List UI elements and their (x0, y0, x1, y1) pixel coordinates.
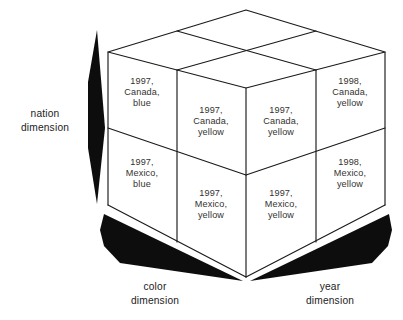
cell-right-bottom-line1: 1998, (338, 157, 362, 167)
cell-left-bottom-inner-line2: Mexico, (195, 199, 227, 209)
nation-dimension-label-line2: dimension (21, 122, 69, 133)
cell-right-bottom-inner-line1: 1997, (269, 188, 293, 198)
cell-right-bottom-line3: yellow (337, 179, 363, 189)
cell-left-bottom-line2: Mexico, (126, 168, 158, 178)
olap-cube-diagram: 1997, Canada, blue 1997, Canada, yellow … (0, 0, 403, 320)
nation-dimension-label: nation dimension (21, 108, 69, 133)
cell-left-bottom-line3: blue (133, 179, 151, 189)
cell-left-top-line2: Canada, (124, 87, 159, 97)
cell-right-top-line1: 1998, (338, 76, 362, 86)
cell-left-top-inner-line1: 1997, (199, 105, 223, 115)
nation-dimension-label-line1: nation (31, 108, 60, 119)
cell-right-top-inner-line1: 1997, (269, 105, 293, 115)
nation-dimension-arrow (88, 30, 105, 204)
color-dimension-label-line2: dimension (131, 295, 179, 306)
cube-illustration: 1997, Canada, blue 1997, Canada, yellow … (0, 0, 403, 320)
color-dimension-label-line1: color (143, 281, 166, 292)
cell-right-top-line3: yellow (337, 98, 363, 108)
cell-right-bottom-inner: 1997, Mexico, yellow (265, 188, 297, 220)
cell-right-top-inner-line2: Canada, (263, 116, 298, 126)
color-dimension-label: color dimension (131, 281, 179, 306)
cell-right-top-line2: Canada, (332, 87, 367, 97)
cell-left-bottom-inner: 1997, Mexico, yellow (195, 188, 227, 220)
cell-left-bottom-inner-line3: yellow (198, 210, 224, 220)
cell-right-bottom-line2: Mexico, (334, 168, 366, 178)
cell-left-bottom-line1: 1997, (130, 157, 154, 167)
cell-right-bottom-inner-line2: Mexico, (265, 199, 297, 209)
cell-left-bottom-inner-line1: 1997, (199, 188, 223, 198)
cell-left-top-inner-line3: yellow (198, 127, 224, 137)
cell-right-top-inner-line3: yellow (268, 127, 294, 137)
cell-right-bottom-inner-line3: yellow (268, 210, 294, 220)
cell-left-top-inner-line2: Canada, (193, 116, 228, 126)
cell-left-top-line3: blue (133, 98, 151, 108)
cell-left-top-line1: 1997, (130, 76, 154, 86)
year-dimension-label: year dimension (306, 281, 354, 306)
year-dimension-label-line2: dimension (306, 295, 354, 306)
year-dimension-label-line1: year (320, 281, 341, 292)
cell-right-bottom: 1998, Mexico, yellow (334, 157, 366, 189)
